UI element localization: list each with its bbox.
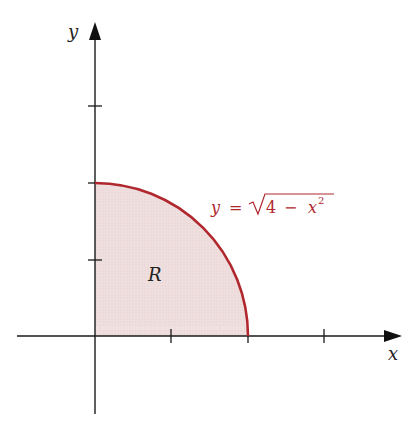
- curve-equation: y = 4 − x 2: [210, 194, 334, 217]
- equation-minus: −: [284, 198, 297, 217]
- region-label: R: [147, 264, 162, 285]
- equation-lhs: y: [210, 198, 221, 217]
- x-axis-arrow-icon: [384, 330, 402, 342]
- equation-radicand-const: 4: [266, 198, 276, 217]
- y-axis-label: y: [67, 21, 79, 42]
- equation-equals: =: [229, 198, 242, 217]
- y-axis-arrow-icon: [89, 22, 101, 40]
- x-axis-label: x: [388, 343, 398, 364]
- region-r-fill: [95, 183, 248, 336]
- equation-variable: x: [308, 198, 317, 217]
- diagram-canvas: y x R y = 4 − x 2: [0, 0, 415, 439]
- equation-exponent: 2: [318, 195, 324, 206]
